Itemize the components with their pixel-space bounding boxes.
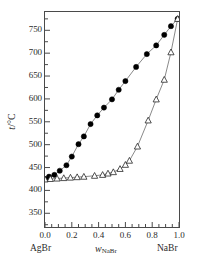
data-point-liquidus xyxy=(168,24,173,29)
data-point-liquidus xyxy=(116,87,121,92)
data-point-liquidus xyxy=(57,168,62,173)
y-tick-label: 650 xyxy=(16,71,42,80)
data-point-solidus xyxy=(161,76,167,82)
data-point-liquidus xyxy=(69,154,74,159)
data-point-liquidus xyxy=(154,43,159,48)
data-point-liquidus xyxy=(81,134,86,139)
endpoint-label-agbr: AgBr xyxy=(30,243,51,254)
plot-area xyxy=(44,11,180,228)
x-tick-label: 0.6 xyxy=(113,230,137,240)
data-point-liquidus xyxy=(109,97,114,102)
y-axis-symbol: t xyxy=(6,127,17,130)
x-tick-label: 0.8 xyxy=(140,230,164,240)
y-tick-label: 450 xyxy=(16,163,42,172)
data-point-liquidus xyxy=(64,163,69,168)
x-tick-label: 1.0 xyxy=(167,230,191,240)
y-axis-unit: /°C xyxy=(6,113,17,126)
y-tick-label: 600 xyxy=(16,94,42,103)
x-axis-symbol: w xyxy=(95,243,102,254)
x-tick-label: 0.0 xyxy=(33,230,57,240)
endpoint-label-nabr: NaBr xyxy=(157,243,178,254)
x-axis-title: wNaBr xyxy=(95,243,117,257)
x-tick-label: 0.4 xyxy=(87,230,111,240)
y-tick-label: 350 xyxy=(16,208,42,217)
data-point-solidus xyxy=(134,143,140,149)
y-axis-title: t/°C xyxy=(6,105,17,139)
data-point-liquidus xyxy=(95,113,100,118)
y-tick-label: 750 xyxy=(16,25,42,34)
data-point-liquidus xyxy=(134,64,139,69)
data-point-solidus xyxy=(168,49,174,55)
data-point-liquidus xyxy=(144,51,149,56)
y-tick-label: 500 xyxy=(16,140,42,149)
data-point-solidus xyxy=(126,157,132,163)
x-tick-label: 0.2 xyxy=(60,230,84,240)
x-axis-tick-labels: 0.00.20.40.60.81.0 xyxy=(0,230,199,242)
y-tick-label: 550 xyxy=(16,117,42,126)
y-tick-label: 700 xyxy=(16,48,42,57)
y-axis-tick-labels: 350400450500550600650700750 xyxy=(12,0,42,264)
data-point-liquidus xyxy=(123,78,128,83)
data-point-liquidus xyxy=(162,32,167,37)
data-point-liquidus xyxy=(88,121,93,126)
x-axis-subscript: NaBr xyxy=(102,247,117,255)
data-point-solidus xyxy=(110,169,116,175)
series-markers xyxy=(45,16,179,182)
phase-diagram-figure: 350400450500550600650700750 t/°C 0.00.20… xyxy=(0,0,199,264)
data-point-liquidus xyxy=(76,142,81,147)
y-tick-label: 400 xyxy=(16,185,42,194)
data-point-solidus xyxy=(117,166,123,172)
data-point-liquidus xyxy=(101,105,106,110)
data-point-solidus xyxy=(153,96,159,102)
data-point-solidus xyxy=(145,117,151,123)
y-major-ticks xyxy=(45,30,50,213)
plot-svg xyxy=(45,12,179,227)
x-minor-ticks xyxy=(52,224,173,227)
